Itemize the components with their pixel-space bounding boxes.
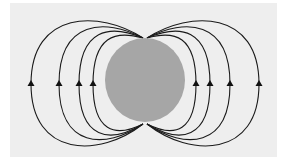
central-body	[105, 38, 185, 122]
dipole-field-diagram	[0, 0, 287, 163]
